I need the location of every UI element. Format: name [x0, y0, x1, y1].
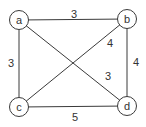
- node-label-c: c: [16, 101, 22, 113]
- edge-c-d: [19, 106, 127, 107]
- node-label-a: a: [16, 14, 23, 26]
- node-label-d: d: [124, 100, 130, 112]
- node-d: d: [118, 97, 137, 116]
- node-a: a: [10, 11, 29, 30]
- edge-a-d: [19, 20, 127, 106]
- edge-weight-a-b: 3: [71, 8, 77, 20]
- edge-weight-a-d: 3: [105, 70, 111, 82]
- node-c: c: [10, 98, 29, 117]
- graph-diagram: 3 4 3 4 3 5 a b c d: [0, 0, 146, 127]
- edge-weight-a-c: 3: [8, 57, 14, 69]
- edge-weight-c-d: 5: [72, 111, 78, 123]
- edge-weight-c-b: 4: [107, 37, 113, 49]
- node-b: b: [118, 10, 137, 29]
- edge-weight-b-d: 4: [133, 56, 139, 68]
- node-label-b: b: [124, 13, 130, 25]
- edges: [19, 19, 127, 107]
